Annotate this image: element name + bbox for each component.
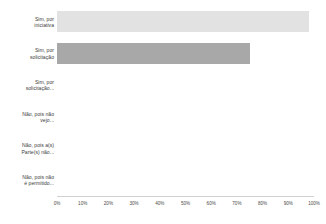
- x-tick-label: 30%: [129, 197, 138, 207]
- chart-plot-wrapper: Sim, por iniciativaSim, por solicitaçãoS…: [0, 0, 326, 224]
- x-tick-label: 70%: [232, 197, 241, 207]
- x-tick-label: 100%: [308, 197, 320, 207]
- x-tick-label: 90%: [284, 197, 293, 207]
- category-label: Não, pois não vejo...: [0, 101, 57, 133]
- category-label-text: Sim, por solicitação...: [26, 79, 54, 91]
- category-label-text: Sim, por solicitação: [30, 47, 54, 59]
- category-label: Não, pois não é permitido...: [0, 164, 57, 196]
- x-tick-label: 80%: [258, 197, 267, 207]
- bar-row: [57, 133, 314, 165]
- category-label: Não, pois a(s) Parte(s) não...: [0, 133, 57, 165]
- category-label-text: Não, pois a(s) Parte(s) não...: [21, 142, 54, 154]
- bar-row: [57, 101, 314, 133]
- category-label-text: Não, pois não vejo...: [22, 111, 54, 123]
- x-tick-label: 60%: [207, 197, 216, 207]
- category-label: Sim, por solicitação: [0, 38, 57, 70]
- category-axis: Sim, por iniciativaSim, por solicitaçãoS…: [0, 6, 57, 196]
- category-label-text: Não, pois não é permitido...: [22, 174, 54, 186]
- x-tick-label: 40%: [155, 197, 164, 207]
- bar-chart: Sim, por iniciativaSim, por solicitaçãoS…: [0, 0, 326, 224]
- bar-row: [57, 69, 314, 101]
- x-tick-label: 50%: [181, 197, 190, 207]
- x-axis-tick-labels: 0%10%20%30%40%50%60%70%80%90%100%: [57, 197, 314, 217]
- x-tick-label: 0%: [54, 197, 61, 207]
- bar-row: [57, 38, 314, 70]
- x-tick-label: 10%: [78, 197, 87, 207]
- category-label-text: Sim, por iniciativa: [34, 16, 54, 28]
- bar[interactable]: [57, 11, 309, 32]
- category-label: Sim, por iniciativa: [0, 6, 57, 38]
- category-label: Sim, por solicitação...: [0, 69, 57, 101]
- x-tick-label: 20%: [104, 197, 113, 207]
- bar-row: [57, 164, 314, 196]
- bar-row: [57, 6, 314, 38]
- bar[interactable]: [57, 43, 250, 64]
- plot-area: [57, 6, 314, 196]
